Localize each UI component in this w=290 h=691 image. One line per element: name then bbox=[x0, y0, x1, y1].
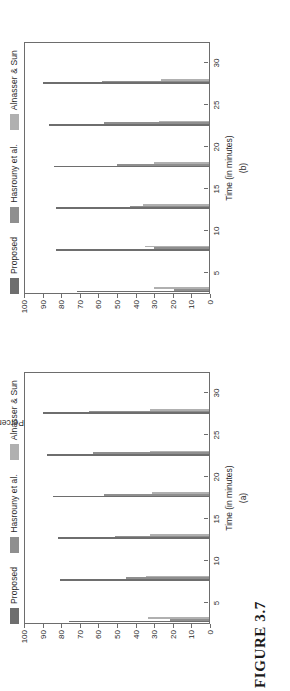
x-tick-mark bbox=[204, 62, 208, 63]
legend-swatch-alnasser bbox=[10, 444, 19, 460]
chart-a-legend: Proposed Hasrouny et al. Alnasser & Sun bbox=[6, 372, 22, 624]
x-tick-label: 25 bbox=[212, 101, 221, 110]
y-tick-mark bbox=[24, 624, 25, 628]
y-tick-mark bbox=[24, 294, 25, 298]
bar bbox=[126, 577, 209, 579]
bar bbox=[143, 204, 209, 206]
bar bbox=[161, 79, 209, 81]
y-tick-mark bbox=[210, 294, 211, 298]
bar-group bbox=[25, 210, 209, 252]
legend-item-hasrouny: Hasrouny et al. bbox=[9, 144, 19, 223]
y-tick-mark bbox=[43, 624, 44, 628]
bar bbox=[117, 164, 209, 166]
x-tick-label: 5 bbox=[212, 271, 221, 275]
legend-swatch-hasrouny bbox=[10, 207, 19, 223]
y-tick-label: 90 bbox=[38, 300, 47, 309]
legend-item-proposed: Proposed bbox=[9, 567, 19, 624]
bar-group bbox=[25, 251, 209, 293]
x-tick-label: 20 bbox=[212, 473, 221, 482]
y-tick-label: 100 bbox=[20, 300, 29, 313]
y-tick-label: 90 bbox=[38, 630, 47, 639]
bar bbox=[104, 494, 209, 496]
bar-group bbox=[25, 373, 209, 415]
y-tick-mark bbox=[117, 294, 118, 298]
y-tick-mark bbox=[98, 294, 99, 298]
x-tick-label: 20 bbox=[212, 143, 221, 152]
y-tick-label: 0 bbox=[206, 300, 215, 304]
legend-swatch-proposed bbox=[10, 608, 19, 624]
chart-b-x-axis-label: Time (in minutes) bbox=[224, 42, 234, 294]
chart-b-subcaption: (b) bbox=[238, 42, 248, 294]
legend-swatch-alnasser bbox=[10, 114, 19, 130]
bar bbox=[154, 162, 209, 164]
bar bbox=[174, 289, 209, 291]
bar bbox=[150, 534, 209, 536]
bar bbox=[60, 579, 209, 581]
bar bbox=[150, 409, 209, 411]
bar bbox=[56, 207, 209, 209]
chart-b-legend: Proposed Hasrouny et al. Alnasser & Sun bbox=[6, 42, 22, 294]
x-tick-label: 10 bbox=[212, 227, 221, 236]
legend-swatch-hasrouny bbox=[10, 537, 19, 553]
bar bbox=[77, 291, 209, 293]
y-tick-mark bbox=[136, 294, 137, 298]
bar bbox=[89, 411, 209, 413]
bar bbox=[154, 287, 209, 289]
bar bbox=[115, 536, 209, 538]
bar-group bbox=[25, 168, 209, 210]
chart-b-y-axis-label: Percentage of detection of self-promotin… bbox=[0, 416, 24, 430]
legend-label-hasrouny: Hasrouny et al. bbox=[9, 474, 19, 533]
bar bbox=[56, 249, 209, 251]
bar bbox=[150, 451, 209, 453]
bar bbox=[130, 206, 209, 208]
y-tick-label: 50 bbox=[113, 300, 122, 309]
bar bbox=[145, 246, 209, 248]
legend-label-proposed: Proposed bbox=[9, 237, 19, 274]
bar bbox=[43, 82, 209, 84]
bar bbox=[53, 496, 209, 498]
y-tick-label: 30 bbox=[150, 630, 159, 639]
x-tick-mark bbox=[204, 146, 208, 147]
legend-label-proposed: Proposed bbox=[9, 567, 19, 604]
chart-b-bars bbox=[25, 43, 209, 293]
legend-label-hasrouny: Hasrouny et al. bbox=[9, 144, 19, 203]
x-tick-mark bbox=[204, 188, 208, 189]
y-tick-mark bbox=[154, 624, 155, 628]
y-tick-mark bbox=[191, 624, 192, 628]
figure-3-7: Proposed Hasrouny et al. Alnasser & Sun … bbox=[6, 8, 256, 668]
bar-group bbox=[25, 581, 209, 623]
y-tick-mark bbox=[210, 624, 211, 628]
x-tick-mark bbox=[204, 434, 208, 435]
bar bbox=[54, 166, 209, 168]
x-tick-label: 30 bbox=[212, 59, 221, 68]
x-tick-label: 25 bbox=[212, 431, 221, 440]
y-tick-label: 10 bbox=[187, 630, 196, 639]
y-tick-mark bbox=[43, 294, 44, 298]
y-tick-label: 40 bbox=[131, 630, 140, 639]
chart-a-bars bbox=[25, 373, 209, 623]
bar bbox=[152, 492, 209, 494]
y-tick-label: 50 bbox=[113, 630, 122, 639]
y-tick-mark bbox=[117, 624, 118, 628]
bar bbox=[148, 617, 209, 619]
chart-b: Proposed Hasrouny et al. Alnasser & Sun … bbox=[6, 38, 256, 338]
x-tick-label: 15 bbox=[212, 515, 221, 524]
chart-a-x-axis: 51015202530 bbox=[212, 372, 224, 624]
bar bbox=[170, 619, 209, 621]
y-tick-label: 70 bbox=[75, 300, 84, 309]
y-tick-mark bbox=[61, 624, 62, 628]
chart-a-plot-area bbox=[24, 372, 210, 624]
y-tick-label: 70 bbox=[75, 630, 84, 639]
x-tick-mark bbox=[204, 602, 208, 603]
x-tick-mark bbox=[204, 272, 208, 273]
bar bbox=[49, 124, 209, 126]
x-tick-label: 30 bbox=[212, 389, 221, 398]
x-tick-mark bbox=[204, 104, 208, 105]
bar-group bbox=[25, 498, 209, 540]
chart-a-x-axis-label: Time (in minutes) bbox=[224, 372, 234, 624]
y-tick-mark bbox=[173, 294, 174, 298]
bar-group bbox=[25, 415, 209, 457]
bar bbox=[47, 454, 209, 456]
legend-swatch-proposed bbox=[10, 278, 19, 294]
chart-a-subcaption: (a) bbox=[238, 372, 248, 624]
